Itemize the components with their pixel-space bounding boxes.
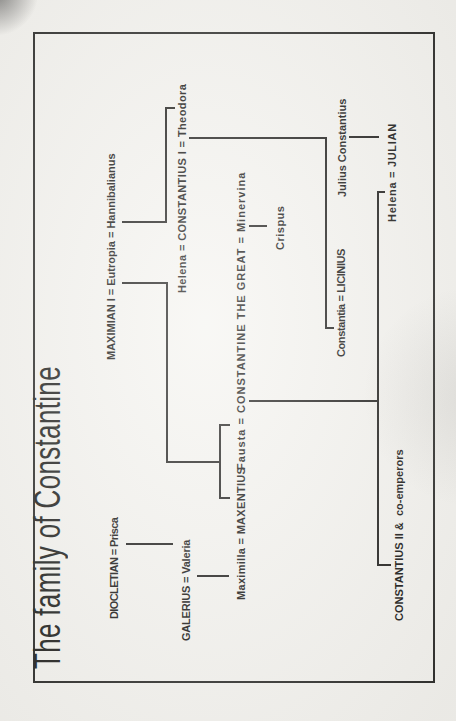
family-tree-canvas: The family of Constantine DIOCLETIAN = P… [0, 0, 456, 721]
person-label-constantine-great: Fausta = CONSTANTINE THE GREAT = Minervi… [235, 172, 247, 470]
person-label-helena-julian: Helena = JULIAN [386, 123, 398, 222]
connector-lines [0, 0, 456, 721]
connector-eutropia-hannibalianus-to-theodora [122, 108, 175, 222]
person-label-diocletian-prisca: DIOCLETIAN = Prisca [108, 518, 120, 619]
person-label-maximilla-maxentius: Maximilla = MAXENTIUS [235, 467, 247, 600]
person-label-constantia-licinius: Constantia = LICINIUS [335, 249, 347, 357]
person-label-maximian-eutropia: MAXIMIAN I = Eutropia = Hannibalianus [105, 153, 117, 360]
person-label-constantius1: Helena = CONSTANTIUS I = Theodora [176, 84, 188, 293]
connector-constantius1-theodora-descent [189, 138, 334, 328]
connector-maximian-descent [122, 283, 220, 462]
person-label-julius-constantius: Julius Constantius [336, 99, 348, 197]
person-label-galerius-valeria: GALERIUS = Valeria [180, 540, 192, 641]
connector-constantine-children-bar [378, 192, 391, 565]
connector-maxentius-fausta-sibling-bar [220, 425, 230, 498]
person-label-crispus: Crispus [274, 206, 286, 250]
scanned-page: The family of Constantine DIOCLETIAN = P… [0, 0, 456, 721]
person-label-constantius2: CONSTANTIUS II & co-emperors [393, 449, 405, 621]
